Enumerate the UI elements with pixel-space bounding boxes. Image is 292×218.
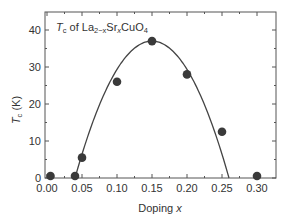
y-tick-label: 10 (29, 135, 41, 147)
title-of: of La (66, 21, 94, 33)
y-axis-label: Tc (K) (10, 96, 24, 124)
dome-fit-line (75, 41, 229, 178)
data-point (46, 172, 55, 181)
x-tick-label: 0.20 (176, 182, 197, 194)
data-point (218, 127, 227, 136)
fit-curve (75, 41, 229, 178)
y-tick-label: 40 (29, 24, 41, 36)
y-tick-label: 20 (29, 98, 41, 110)
tc-doping-chart: 0.000.050.100.150.200.250.30 010203040 T… (0, 0, 292, 218)
data-point (148, 37, 157, 46)
x-axis-label: Doping x (138, 202, 182, 214)
title-sr: Sr (106, 21, 117, 33)
x-tick-label: 0.25 (211, 182, 232, 194)
chart-title: Tc of La2−xSrxCuO4 (56, 21, 148, 35)
title-cuo: CuO (121, 21, 144, 33)
y-tick-label: 30 (29, 61, 41, 73)
title-sub3: 4 (144, 26, 148, 35)
x-tick-label: 0.05 (71, 182, 92, 194)
x-label-var: x (175, 202, 182, 214)
data-point (183, 70, 192, 79)
data-point (113, 78, 122, 87)
x-tick-label: 0.30 (246, 182, 267, 194)
x-label-text: Doping (138, 202, 176, 214)
x-tick-label: 0.15 (141, 182, 162, 194)
data-point (78, 153, 87, 162)
data-point (71, 172, 80, 181)
y-axis-ticks: 010203040 (29, 24, 276, 184)
data-point (253, 172, 262, 181)
y-tick-label: 0 (35, 172, 41, 184)
y-label-unit: (K) (10, 96, 22, 114)
data-points (46, 37, 261, 181)
x-tick-label: 0.10 (106, 182, 127, 194)
title-sub1: 2−x (94, 26, 107, 35)
plot-frame (45, 12, 276, 178)
